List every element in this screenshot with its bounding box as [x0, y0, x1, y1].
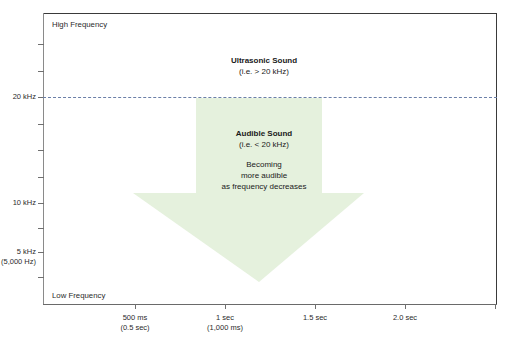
y-axis-label-20khz: 20 kHz: [0, 92, 36, 102]
y-tick-major-10khz: [38, 203, 44, 204]
x-axis-label-500ms: 500 ms: [95, 313, 175, 323]
audible-sound-block: Audible Sound (i.e. < 20 kHz) Becoming m…: [174, 128, 354, 192]
x-axis-label-1sec-sub: (1,000 ms): [185, 323, 265, 333]
low-frequency-label: Low Frequency: [52, 291, 105, 300]
y-axis-label-5khz: 5 kHz: [0, 247, 36, 257]
x-tick-1-5sec: [315, 304, 316, 309]
x-axis-label-2sec: 2.0 sec: [365, 313, 445, 323]
y-tick-minor: [38, 150, 44, 151]
x-axis-label-1-5sec: 1.5 sec: [275, 313, 355, 323]
y-axis-label-10khz: 10 kHz: [0, 198, 36, 208]
threshold-line-20khz: [43, 97, 497, 98]
y-tick-minor: [38, 71, 44, 72]
y-tick-minor: [38, 277, 44, 278]
ultrasonic-subtitle: (i.e. > 20 kHz): [179, 66, 349, 77]
audible-title: Audible Sound: [174, 128, 354, 139]
y-tick-major-5khz: [38, 252, 44, 253]
x-axis-label-1sec: 1 sec: [185, 313, 265, 323]
ultrasonic-title: Ultrasonic Sound: [179, 55, 349, 66]
x-axis-label-500ms-sub: (0.5 sec): [95, 323, 175, 333]
y-axis-line: [43, 13, 44, 305]
y-axis-label-5khz-sub: (5,000 Hz): [0, 257, 36, 267]
chart-canvas: High Frequency Low Frequency 20 kHz 10 k…: [0, 0, 509, 344]
audible-note-line-2: more audible: [174, 170, 354, 181]
x-tick-1sec: [225, 304, 226, 309]
audible-note-line-3: as frequency decreases: [174, 181, 354, 192]
y-tick-minor: [38, 177, 44, 178]
x-tick-end: [495, 304, 496, 309]
x-axis-line: [43, 304, 497, 305]
y-tick-minor: [38, 124, 44, 125]
x-tick-2sec: [405, 304, 406, 309]
high-frequency-label: High Frequency: [52, 20, 107, 29]
y-tick-minor: [38, 44, 44, 45]
audible-subtitle: (i.e. < 20 kHz): [174, 139, 354, 150]
audible-spacer: [174, 150, 354, 159]
y-tick-minor: [38, 228, 44, 229]
audible-note-line-1: Becoming: [174, 159, 354, 170]
x-tick-500ms: [135, 304, 136, 309]
ultrasonic-sound-block: Ultrasonic Sound (i.e. > 20 kHz): [179, 55, 349, 77]
